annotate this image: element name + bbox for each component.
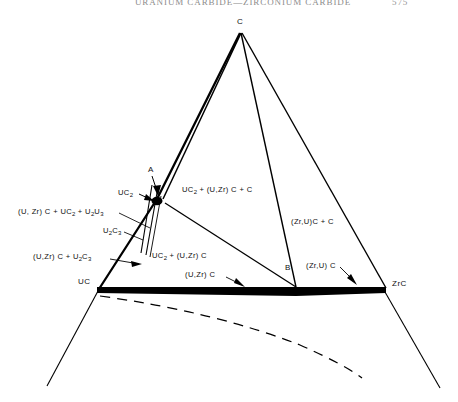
leader-uzrc-arrowhead	[234, 278, 245, 287]
edge-c-to-b	[241, 33, 296, 287]
region-label-uc2-uzrc: UC2 + (U,Zr) C	[152, 252, 207, 260]
edge-zrc-to-lower-right	[385, 292, 440, 388]
node-label-a: A	[148, 166, 154, 174]
page-number: 575	[392, 0, 408, 7]
region-label-zruc: (Zr,U) C	[306, 262, 336, 270]
ternary-phase-diagram	[0, 0, 458, 402]
region-label-uzrc-uc2-u2u3: (U, Zr) C + UC2 + U2U3	[18, 208, 103, 216]
solid-solution-bar	[97, 287, 386, 296]
vertex-label-uranium-carbide: UC	[78, 278, 91, 286]
node-a-marker	[152, 197, 163, 205]
leader-uzrc-u2c3-arrowhead	[131, 261, 142, 267]
edge-c-to-a-inner	[163, 33, 241, 199]
node-label-b: B	[285, 264, 291, 272]
region-label-uzrc-u2c3: (U,Zr) C + U2C3	[33, 253, 91, 261]
vertex-label-carbon: C	[237, 18, 243, 26]
dashed-boundary-curve	[100, 296, 362, 378]
region-label-uc2-uzrc-c: UC2 + (U,Zr) C + C	[182, 186, 252, 194]
leader-uc2-arrowhead	[144, 194, 154, 201]
region-label-zruc-c: (Zr,U)C + C	[291, 218, 334, 226]
region-label-uc2: UC2	[118, 189, 133, 197]
edge-uc-to-lower-left	[47, 291, 98, 386]
region-label-uzrc: (U,Zr) C	[185, 271, 215, 279]
running-head-title: URANIUM CARBIDE—ZIRCONIUM CARBIDE	[108, 0, 378, 7]
strand-a-lower-3	[150, 196, 161, 257]
leader-u2c3	[124, 232, 143, 240]
edge-c-to-zrc	[242, 33, 386, 288]
region-label-u2c3: U2C3	[103, 227, 121, 235]
vertex-label-zirconium-carbide: ZrC	[392, 280, 407, 288]
